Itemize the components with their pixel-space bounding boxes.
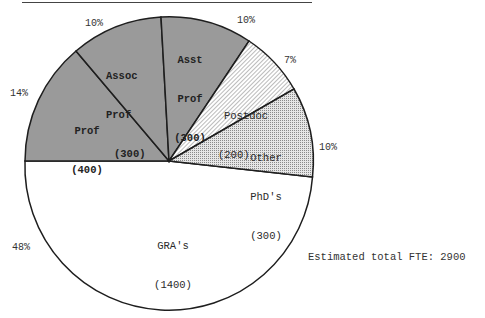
label-asst-name1: Asst: [170, 54, 210, 67]
label-assoc-name1: Assoc: [100, 70, 160, 83]
label-other-phds: Other PhD's (300): [240, 126, 292, 256]
pct-postdoc: 7%: [284, 55, 296, 66]
pct-gra: 48%: [12, 242, 30, 253]
label-other-name2: PhD's: [240, 191, 292, 204]
label-gra: GRA's (1400): [145, 214, 201, 305]
pct-other-phds: 10%: [319, 142, 337, 153]
label-asst-value: (300): [170, 132, 210, 145]
label-gra-name: GRA's: [145, 240, 201, 253]
label-asst-name2: Prof: [170, 93, 210, 106]
label-other-value: (300): [240, 230, 292, 243]
label-asst-prof: Asst Prof (300): [170, 28, 210, 158]
pct-assoc-prof: 10%: [85, 18, 103, 29]
label-other-name1: Other: [240, 152, 292, 165]
label-assoc-prof: Assoc Prof (300): [100, 44, 160, 174]
label-assoc-name2: Prof: [100, 109, 160, 122]
total-annotation: Estimated total FTE: 2900: [308, 251, 466, 263]
pct-asst-prof: 10%: [237, 15, 255, 26]
label-postdoc-name: Postdoc: [218, 110, 278, 123]
label-gra-value: (1400): [145, 279, 201, 292]
label-assoc-value: (300): [100, 148, 160, 161]
pct-prof: 14%: [10, 88, 28, 99]
